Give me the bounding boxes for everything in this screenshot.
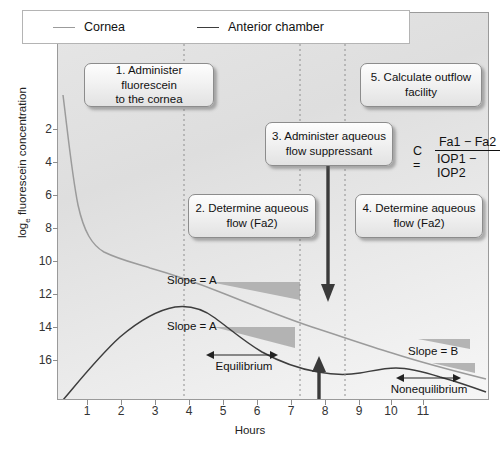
x-tick-label-10: 10	[381, 404, 401, 418]
legend: Cornea Anterior chamber	[22, 10, 410, 44]
legend-line-icon-cornea	[53, 27, 75, 28]
y-tick-label-10: 10	[26, 254, 52, 268]
callout-step-2: 2. Determine aqueous flow (Fa2)	[188, 194, 316, 238]
y-tick-mark-10	[53, 261, 58, 262]
y-tick-mark-8	[53, 228, 58, 229]
x-tick-label-6: 6	[247, 404, 267, 418]
callout-step-5-line-2: facility	[405, 86, 437, 98]
y-tick-label-8: 8	[26, 221, 52, 235]
callout-step-2-line-1: 2. Determine aqueous	[195, 202, 308, 214]
formula-denominator: IOP1 − IOP2	[435, 150, 500, 180]
legend-line-icon-anterior-chamber	[197, 27, 219, 28]
callout-step-4-line-2: flow (Fa2)	[393, 217, 444, 229]
x-tick-mark-1	[87, 400, 88, 405]
outflow-facility-formula: C = Fa1 − Fa2 IOP1 − IOP2	[413, 135, 500, 180]
formula-fraction: Fa1 − Fa2 IOP1 − IOP2	[435, 135, 500, 180]
callout-step-3-line-1: 3. Administer aqueous	[272, 130, 386, 142]
y-tick-mark-12	[53, 294, 58, 295]
y-tick-mark-2	[53, 129, 58, 130]
callout-step-4: 4. Determine aqueous flow (Fa2)	[355, 194, 483, 238]
callout-step-5: 5. Calculate outflow facility	[360, 63, 482, 107]
x-axis-label: Hours	[0, 424, 500, 436]
legend-item-anterior-chamber: Anterior chamber	[197, 20, 324, 34]
x-tick-mark-3	[155, 400, 156, 405]
y-tick-label-6: 6	[26, 188, 52, 202]
y-tick-mark-4	[53, 162, 58, 163]
y-tick-mark-6	[53, 195, 58, 196]
y-tick-label-4: 4	[26, 155, 52, 169]
x-tick-label-9: 9	[349, 404, 369, 418]
slope-label-cornea-equilibrium: Slope = A	[167, 274, 217, 286]
aqueous-flow-fluorophotometry-figure: Cornea Anterior chamber 1. Administer fl…	[0, 0, 500, 451]
x-tick-label-11: 11	[413, 404, 433, 418]
y-tick-label-2: 2	[26, 122, 52, 136]
x-tick-label-2: 2	[111, 404, 131, 418]
y-tick-label-14: 14	[26, 320, 52, 334]
nonequilibrium-span-label: Nonequilibrium	[383, 383, 475, 395]
x-tick-label-1: 1	[77, 404, 97, 418]
formula-lhs: C =	[413, 144, 430, 172]
y-tick-label-12: 12	[26, 287, 52, 301]
x-tick-mark-5	[223, 400, 224, 405]
x-tick-label-3: 3	[145, 404, 165, 418]
y-tick-label-16: 16	[26, 353, 52, 367]
callout-step-2-line-2: flow (Fa2)	[226, 217, 277, 229]
slope-label-anterior-equilibrium: Slope = A	[167, 320, 217, 332]
x-tick-mark-6	[257, 400, 258, 405]
x-tick-mark-8	[325, 400, 326, 405]
slope-label-nonequilibrium: Slope = B	[408, 345, 458, 357]
y-tick-mark-14	[53, 327, 58, 328]
callout-step-5-line-1: 5. Calculate outflow	[371, 71, 471, 83]
x-tick-mark-11	[423, 400, 424, 405]
x-tick-mark-7	[291, 400, 292, 405]
x-tick-label-7: 7	[281, 404, 301, 418]
y-tick-mark-16	[53, 360, 58, 361]
legend-label-anterior-chamber: Anterior chamber	[228, 20, 324, 34]
x-tick-mark-9	[359, 400, 360, 405]
callout-step-1-line-1: 1. Administer fluorescein	[116, 64, 182, 91]
legend-item-cornea: Cornea	[53, 20, 125, 34]
x-tick-mark-4	[189, 400, 190, 405]
legend-label-cornea: Cornea	[84, 20, 125, 34]
callout-step-1-line-2: to the cornea	[115, 93, 182, 105]
x-tick-mark-2	[121, 400, 122, 405]
callout-step-3: 3. Administer aqueous flow suppressant	[265, 122, 393, 166]
formula-numerator: Fa1 − Fa2	[437, 135, 498, 150]
callout-step-3-line-2: flow suppressant	[286, 145, 372, 157]
callout-step-4-line-1: 4. Determine aqueous	[362, 202, 475, 214]
x-tick-label-5: 5	[213, 404, 233, 418]
x-tick-mark-10	[391, 400, 392, 405]
equilibrium-span-label: Equilibrium	[202, 360, 286, 372]
x-tick-label-8: 8	[315, 404, 335, 418]
x-tick-label-4: 4	[179, 404, 199, 418]
callout-step-1: 1. Administer fluorescein to the cornea	[84, 63, 214, 107]
